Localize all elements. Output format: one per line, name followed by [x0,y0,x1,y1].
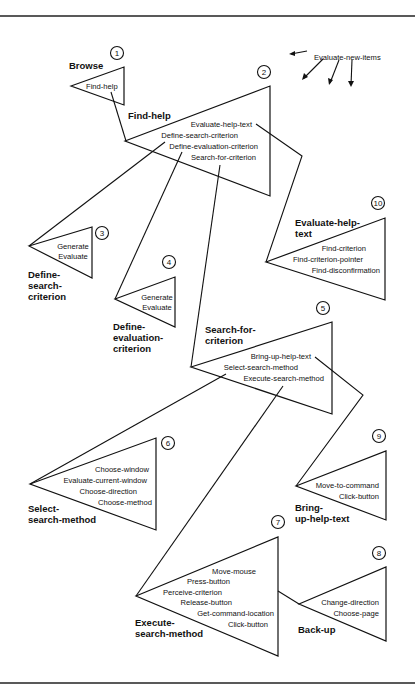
node-number: 3 [100,229,105,238]
node-title: text [295,228,313,239]
node-title: Select- [28,503,59,514]
node-number: 4 [167,258,172,267]
connector-5-to-7 [136,386,283,596]
node-evaluate-help-text: 10 Evaluate-help- text Find-criterion Fi… [266,197,385,301]
triangle [115,277,175,327]
triangle [125,86,270,196]
node-number: 10 [374,199,383,208]
goal-hierarchy-diagram: Evaluate-new-items 1 [0,0,415,695]
node-number: 7 [276,518,281,527]
node-item: Choose-method [98,498,152,507]
node-number: 2 [262,68,267,77]
node-item: Click-button [339,492,379,501]
node-title: Evaluate-help- [295,217,360,228]
node-search-for-criterion: 5 Search-for- criterion Bring-up-help-te… [191,302,332,415]
arrow-icon [348,60,354,87]
node-item: Find-criterion [322,244,366,253]
node-item: Bring-up-help-text [251,352,312,361]
node-number: 6 [166,439,171,448]
node-title: Search-for- [205,324,256,335]
node-item: Select-search-method [224,363,298,372]
node-select-search-method: 6 Choose-window Evaluate-current-window … [28,437,175,531]
legend-evaluate-new-items: Evaluate-new-items [289,51,381,87]
node-title: criterion [205,335,243,346]
arrow-icon [289,51,307,56]
node-browse: 1 Browse Find-help [69,47,124,106]
node-item: Choose-direction [80,487,137,496]
node-title: Find-help [128,110,171,121]
node-item: Evaluate-current-window [63,476,147,485]
node-item: Find-disconfirmation [312,266,380,275]
node-item: Move-mouse [212,567,256,576]
node-item: Find-criterion-pointer [293,255,364,264]
node-item: Press-button [187,577,230,586]
node-item: Choose-page [333,609,379,618]
node-title: Define- [28,269,60,280]
node-item: Search-for-criterion [191,153,256,162]
arrow-icon [302,59,323,80]
node-title: Back-up [298,624,336,635]
node-define-evaluation-criterion: 4 Generate Evaluate Define- evaluation- … [113,256,176,355]
node-title: up-help-text [295,513,350,524]
node-number: 9 [377,432,382,441]
node-title: search-method [135,628,203,639]
node-title: criterion [28,291,66,302]
node-item: Perceive-criterion [163,588,222,597]
node-title: criterion [113,343,151,354]
arrow-icon [328,60,339,85]
node-item: Generate [57,242,89,251]
connector-7-to-8 [278,591,299,604]
connectors [29,92,363,604]
node-bring-up-help-text: 9 Move-to-command Click-button Bring- up… [295,430,386,525]
node-title: Define- [113,321,145,332]
node-item: Evaluate-help-text [191,120,253,129]
node-item: Move-to-command [316,481,379,490]
node-title: search-method [28,514,96,525]
node-title: Bring- [295,502,323,513]
node-item: Define-evaluation-criterion [169,142,258,151]
node-item: Find-help [86,82,118,91]
node-item: Generate [141,293,173,302]
node-item: Get-command-location [197,609,274,618]
node-item: Evaluate [142,303,172,312]
node-back-up: 8 Change-direction Choose-page Back-up [298,547,386,642]
node-item: Release-button [180,598,232,607]
node-title: search- [28,280,62,291]
node-title: Execute- [135,617,175,628]
legend-label: Evaluate-new-items [314,53,381,62]
node-number: 5 [321,304,326,313]
node-item: Choose-window [95,465,150,474]
node-execute-search-method: 7 Move-mouse Press-button Perceive-crite… [135,516,285,657]
node-item: Click-button [228,620,268,629]
connector-2-to-4 [115,152,182,299]
node-title: evaluation- [113,332,163,343]
node-item: Change-direction [321,598,379,607]
node-item: Execute-search-method [243,374,324,383]
node-number: 8 [377,549,382,558]
node-number: 1 [115,49,120,58]
node-item: Evaluate [58,252,88,261]
node-item: Define-search-criterion [161,131,238,140]
node-find-help: 2 Find-help Evaluate-help-text Define-se… [125,66,271,197]
node-title: Browse [69,60,103,71]
